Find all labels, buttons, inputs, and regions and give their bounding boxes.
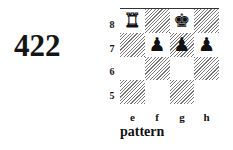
square-e7	[120, 33, 145, 57]
diagram-number: 422	[14, 28, 61, 64]
square-f7: ♟	[145, 33, 170, 57]
rank-label-7: 7	[108, 43, 116, 54]
square-h5	[194, 80, 219, 104]
square-h7: ♟	[194, 33, 219, 57]
square-e6	[120, 57, 145, 81]
black-pawn-icon: ♟	[198, 35, 215, 54]
white-rook-icon: ♜	[124, 11, 141, 30]
file-label-e: e	[120, 111, 145, 123]
black-king-icon: ♚	[173, 11, 190, 30]
chess-board: ♜ ♚ ♟ ♟ ♟	[120, 8, 219, 103]
square-g7: ♟	[170, 33, 195, 57]
black-pawn-icon: ♟	[173, 35, 190, 54]
square-f6	[145, 57, 170, 81]
square-f8	[145, 9, 170, 33]
rank-label-8: 8	[108, 19, 116, 30]
diagram-caption: pattern	[120, 124, 164, 140]
rank-label-5: 5	[108, 90, 116, 101]
square-g5	[170, 80, 195, 104]
square-g6	[170, 57, 195, 81]
file-label-g: g	[170, 111, 195, 123]
square-g8: ♚	[170, 9, 195, 33]
file-label-f: f	[145, 111, 170, 123]
square-h8	[194, 9, 219, 33]
square-h6	[194, 57, 219, 81]
black-pawn-icon: ♟	[149, 35, 166, 54]
rank-label-6: 6	[108, 66, 116, 77]
square-f5	[145, 80, 170, 104]
file-label-h: h	[194, 111, 219, 123]
square-e8: ♜	[120, 9, 145, 33]
square-e5	[120, 80, 145, 104]
